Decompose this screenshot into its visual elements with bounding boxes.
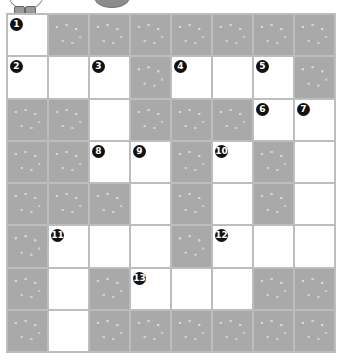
oval-decoration-icon [94,0,130,8]
answer-cell[interactable] [49,269,88,309]
clue-number-badge: 11 [51,229,64,242]
block-cell [254,269,293,309]
block-cell [131,57,170,97]
clue-number-badge: 1 [10,18,23,31]
block-cell [49,15,88,55]
block-cell [295,269,334,309]
block-cell [254,311,293,351]
block-cell [49,184,88,224]
answer-cell[interactable]: 3 [90,57,129,97]
block-cell [172,142,211,182]
block-cell [295,311,334,351]
block-cell [8,226,47,266]
block-cell [172,311,211,351]
clue-number-badge: 3 [92,60,105,73]
block-cell [295,15,334,55]
clue-number-badge: 10 [215,145,228,158]
block-cell [90,311,129,351]
block-cell [8,142,47,182]
clue-number-badge: 6 [256,103,269,116]
answer-cell[interactable] [131,184,170,224]
clue-number-badge: 5 [256,60,269,73]
clue-number-badge: 9 [133,145,146,158]
answer-cell[interactable] [295,184,334,224]
answer-cell[interactable] [90,226,129,266]
answer-cell[interactable]: 7 [295,100,334,140]
block-cell [213,311,252,351]
block-cell [90,184,129,224]
answer-cell[interactable]: 8 [90,142,129,182]
answer-cell[interactable]: 4 [172,57,211,97]
block-cell [172,184,211,224]
block-cell [90,269,129,309]
answer-cell[interactable] [213,57,252,97]
answer-cell[interactable] [49,57,88,97]
clue-number-badge: 4 [174,60,187,73]
crossword-grid: 12345678910111213 [6,13,336,353]
block-cell [131,100,170,140]
clue-number-badge: 8 [92,145,105,158]
answer-cell[interactable] [172,269,211,309]
answer-cell[interactable]: 2 [8,57,47,97]
clue-number-badge: 7 [297,103,310,116]
answer-cell[interactable]: 10 [213,142,252,182]
answer-cell[interactable]: 1 [8,15,47,55]
block-cell [8,269,47,309]
block-cell [8,100,47,140]
block-cell [131,311,170,351]
answer-cell[interactable] [295,142,334,182]
clue-number-badge: 12 [215,229,228,242]
answer-cell[interactable]: 5 [254,57,293,97]
block-cell [49,142,88,182]
block-cell [90,15,129,55]
block-cell [8,311,47,351]
answer-cell[interactable] [90,100,129,140]
answer-cell[interactable]: 6 [254,100,293,140]
block-cell [49,100,88,140]
answer-cell[interactable]: 9 [131,142,170,182]
block-cell [254,142,293,182]
answer-cell[interactable] [49,311,88,351]
block-cell [172,100,211,140]
block-cell [254,15,293,55]
answer-cell[interactable] [295,226,334,266]
answer-cell[interactable] [131,226,170,266]
block-cell [131,15,170,55]
answer-cell[interactable] [213,269,252,309]
block-cell [254,184,293,224]
answer-cell[interactable]: 11 [49,226,88,266]
block-cell [172,226,211,266]
answer-cell[interactable] [213,184,252,224]
block-cell [213,100,252,140]
clue-number-badge: 13 [133,272,146,285]
block-cell [295,57,334,97]
block-cell [8,184,47,224]
answer-cell[interactable]: 12 [213,226,252,266]
block-cell [172,15,211,55]
answer-cell[interactable]: 13 [131,269,170,309]
answer-cell[interactable] [254,226,293,266]
block-cell [213,15,252,55]
clue-number-badge: 2 [10,60,23,73]
